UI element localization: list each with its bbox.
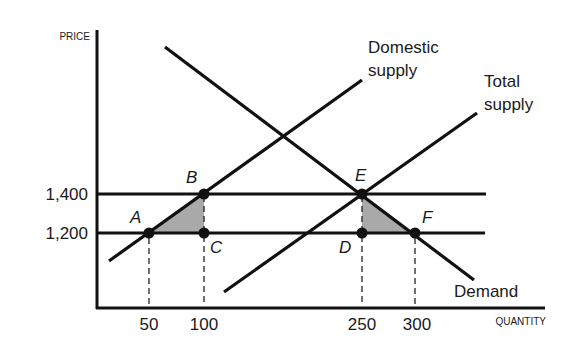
total-supply-curve <box>224 113 477 292</box>
y-axis-label: PRICE <box>59 31 90 42</box>
y-tick-1400: 1,400 <box>45 185 88 204</box>
point-e-label: E <box>355 166 367 185</box>
demand-label: Demand <box>454 282 518 301</box>
supply-demand-chart: PRICE QUANTITY 1,400 1,200 50 100 250 30… <box>0 0 580 351</box>
x-tick-50: 50 <box>140 315 159 334</box>
x-tick-250: 250 <box>348 315 376 334</box>
point-a-label: A <box>129 208 141 227</box>
point-c-label: C <box>210 238 223 257</box>
x-axis-label: QUANTITY <box>495 316 546 327</box>
point-f-marker <box>410 228 421 239</box>
total-supply-label-line2: supply <box>484 95 534 114</box>
point-c-marker <box>199 228 210 239</box>
point-d-marker <box>357 228 368 239</box>
point-e-marker <box>357 189 368 200</box>
point-f-label: F <box>422 208 434 227</box>
total-supply-label-line1: Total <box>484 72 520 91</box>
x-tick-100: 100 <box>190 315 218 334</box>
point-a-marker <box>144 228 155 239</box>
point-d-label: D <box>339 238 351 257</box>
point-b-label: B <box>186 168 197 187</box>
domestic-supply-label-line1: Domestic <box>368 38 439 57</box>
x-tick-300: 300 <box>403 315 431 334</box>
domestic-supply-label-line2: supply <box>368 61 418 80</box>
point-b-marker <box>199 189 210 200</box>
y-tick-1200: 1,200 <box>45 224 88 243</box>
